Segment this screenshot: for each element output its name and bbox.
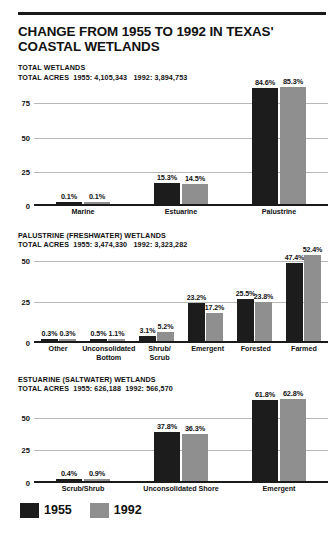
bar: 0.1% xyxy=(84,202,110,204)
bar-group: 0.3%0.3% xyxy=(34,253,83,341)
bar-value-label: 52.4% xyxy=(303,246,323,254)
plot-area: 02550 0.3%0.3%0.5%1.1%3.1%5.2%23.2%17.2%… xyxy=(34,253,328,343)
bar-group: 84.6%85.3% xyxy=(230,86,328,204)
y-axis-tick-label: 50 xyxy=(22,413,30,422)
bar-group: 0.4%0.9% xyxy=(34,397,132,481)
bar-group: 25.5%23.8% xyxy=(230,253,279,341)
x-axis-tick-label: Emergent xyxy=(230,485,328,494)
x-axis-tick-label: Shrub/ Scrub xyxy=(135,345,183,363)
bar-groups: 0.4%0.9%37.8%36.3%61.8%62.8% xyxy=(34,397,328,481)
panel-subtitle: TOTAL ACRES 1955: 3,474,330 1992: 3,323,… xyxy=(18,240,328,250)
bar-groups: 0.1%0.1%15.3%14.5%84.6%85.3% xyxy=(34,86,328,204)
bar-group: 0.5%1.1% xyxy=(83,253,132,341)
bar-value-label: 85.3% xyxy=(283,77,303,86)
y-axis-labels: 02550 xyxy=(18,397,32,481)
y-axis-tick-label: 25 xyxy=(22,446,30,455)
y-axis-tick-label: 50 xyxy=(22,133,30,142)
top-divider xyxy=(18,12,326,15)
chart-panel-total-wetlands: TOTAL WETLANDS TOTAL ACRES 1955: 4,105,3… xyxy=(18,63,328,216)
y-axis-tick-label: 0 xyxy=(26,478,30,487)
bar: 3.1% xyxy=(139,336,156,341)
bar-value-label: 62.8% xyxy=(283,389,303,398)
x-axis-tick-label: Palustrine xyxy=(230,208,328,217)
x-axis-labels: OtherUnconsolidated BottomShrub/ ScrubEm… xyxy=(34,345,328,363)
bar: 14.5% xyxy=(182,184,208,204)
y-axis-labels: 02550 xyxy=(18,253,32,341)
bar-value-label: 36.3% xyxy=(185,424,205,433)
y-axis-labels: 0255075 xyxy=(18,86,32,204)
x-axis-tick-label: Forested xyxy=(232,345,280,363)
panel-header: TOTAL WETLANDS TOTAL ACRES 1955: 4,105,3… xyxy=(18,63,328,82)
legend-label: 1992 xyxy=(114,503,142,517)
bar-value-label: 0.1% xyxy=(61,192,77,201)
bar-groups: 0.3%0.3%0.5%1.1%3.1%5.2%23.2%17.2%25.5%2… xyxy=(34,253,328,341)
x-axis-tick-label: Estuarine xyxy=(132,208,230,217)
legend-item-1955: 1955 xyxy=(20,503,72,518)
panel-title: TOTAL WETLANDS xyxy=(18,63,328,73)
plot-area: 0255075 0.1%0.1%15.3%14.5%84.6%85.3% xyxy=(34,86,328,206)
page-title: CHANGE FROM 1955 TO 1992 IN TEXAS' COAST… xyxy=(18,24,328,54)
y-axis-tick-label: 0 xyxy=(26,338,30,347)
bar: 37.8% xyxy=(154,432,180,481)
bar-group: 47.4%52.4% xyxy=(279,253,328,341)
x-axis-tick-label: Farmed xyxy=(280,345,328,363)
bar: 47.4% xyxy=(286,263,303,341)
infographic-page: CHANGE FROM 1955 TO 1992 IN TEXAS' COAST… xyxy=(0,12,332,554)
bar-value-label: 3.1% xyxy=(140,327,156,335)
x-axis-tick-label: Other xyxy=(34,345,82,363)
bar-value-label: 61.8% xyxy=(255,390,275,399)
bar: 62.8% xyxy=(280,399,306,481)
y-axis-tick-label: 75 xyxy=(22,99,30,108)
bar: 1.1% xyxy=(108,339,125,341)
panel-title: ESTUARINE (SALTWATER) WETLANDS xyxy=(18,375,328,385)
bar-value-label: 14.5% xyxy=(185,174,205,183)
bar-value-label: 25.5% xyxy=(236,290,256,298)
legend-item-1992: 1992 xyxy=(90,503,142,518)
bar-group: 0.1%0.1% xyxy=(34,86,132,204)
y-axis-tick-label: 0 xyxy=(26,201,30,210)
bar: 23.2% xyxy=(188,303,205,341)
bar-group: 61.8%62.8% xyxy=(230,397,328,481)
bar: 85.3% xyxy=(280,87,306,203)
bar: 17.2% xyxy=(206,313,223,341)
bar-value-label: 23.2% xyxy=(187,294,207,302)
x-axis-tick-label: Marine xyxy=(34,208,132,217)
bar-value-label: 15.3% xyxy=(157,173,177,182)
panel-subtitle: TOTAL ACRES 1955: 4,105,343 1992: 3,894,… xyxy=(18,73,328,83)
bar: 61.8% xyxy=(252,400,278,481)
bar-value-label: 37.8% xyxy=(157,422,177,431)
y-axis-tick-label: 25 xyxy=(22,167,30,176)
bar-value-label: 1.1% xyxy=(109,330,125,338)
bar: 5.2% xyxy=(157,332,174,341)
bar: 0.9% xyxy=(84,479,110,481)
bar-group: 15.3%14.5% xyxy=(132,86,230,204)
bar: 36.3% xyxy=(182,434,208,481)
x-axis-labels: MarineEstuarinePalustrine xyxy=(34,208,328,217)
bar-value-label: 0.1% xyxy=(89,192,105,201)
plot-area: 02550 0.4%0.9%37.8%36.3%61.8%62.8% xyxy=(34,397,328,483)
bar-group: 23.2%17.2% xyxy=(181,253,230,341)
bar-group: 37.8%36.3% xyxy=(132,397,230,481)
bar-value-label: 47.4% xyxy=(285,254,305,262)
bar: 0.1% xyxy=(56,202,82,204)
bar-value-label: 5.2% xyxy=(158,323,174,331)
legend-swatch-icon xyxy=(90,503,109,518)
bar: 52.4% xyxy=(304,255,321,341)
bar: 15.3% xyxy=(154,183,180,204)
bar: 0.3% xyxy=(59,339,76,341)
y-axis-tick-label: 50 xyxy=(22,257,30,266)
bar-value-label: 84.6% xyxy=(255,78,275,87)
bar-value-label: 0.9% xyxy=(89,469,105,478)
y-axis-tick-label: 25 xyxy=(22,298,30,307)
x-axis-labels: Scrub/ShrubUnconsolidated ShoreEmergent xyxy=(34,485,328,494)
chart-legend: 1955 1992 xyxy=(20,503,328,518)
legend-swatch-icon xyxy=(20,503,39,518)
bar: 23.8% xyxy=(255,302,272,341)
bar-value-label: 0.3% xyxy=(42,330,58,338)
panel-subtitle: TOTAL ACRES 1955: 626,188 1992: 566,570 xyxy=(18,384,328,394)
bar-value-label: 0.4% xyxy=(61,469,77,478)
bar: 25.5% xyxy=(237,299,254,341)
x-axis-tick-label: Scrub/Shrub xyxy=(34,485,132,494)
panel-header: PALUSTRINE (FRESHWATER) WETLANDS TOTAL A… xyxy=(18,231,328,250)
legend-label: 1955 xyxy=(44,503,72,517)
